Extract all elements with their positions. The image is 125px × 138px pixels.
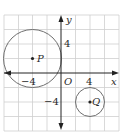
y-axis-up-arrow-icon bbox=[59, 15, 64, 22]
origin-label: O bbox=[64, 76, 72, 87]
x-tick-neg4: −4 bbox=[21, 76, 36, 87]
coordinate-plane: y x O 4 −4 4 −4 P Q bbox=[0, 0, 125, 138]
y-axis-down-arrow-icon bbox=[59, 123, 64, 130]
label-p: P bbox=[36, 53, 44, 64]
x-axis-arrow-icon bbox=[112, 71, 119, 76]
x-axis-left-arrow-icon bbox=[4, 71, 11, 76]
y-tick-4: 4 bbox=[64, 38, 70, 49]
label-q: Q bbox=[92, 96, 100, 107]
y-tick-neg4: −4 bbox=[44, 96, 59, 107]
x-axis-label: x bbox=[111, 76, 117, 87]
y-axis-label: y bbox=[65, 14, 72, 25]
point-p bbox=[31, 57, 34, 60]
x-tick-4: 4 bbox=[86, 76, 92, 87]
